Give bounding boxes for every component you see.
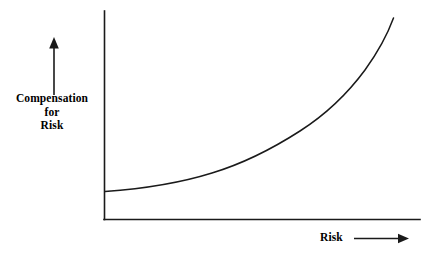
up-arrow-icon xyxy=(49,37,59,49)
y-axis-label-line-3: Risk xyxy=(0,119,104,133)
x-axis-label: Risk xyxy=(320,231,343,243)
y-axis-label-line-2: for xyxy=(0,106,104,120)
right-arrow-icon xyxy=(398,234,409,244)
y-axis-label-line-1: Compensation xyxy=(0,92,104,106)
risk-compensation-chart: Compensation for Risk Risk xyxy=(0,0,427,258)
y-axis-label: Compensation for Risk xyxy=(0,92,104,133)
compensation-risk-curve xyxy=(105,18,394,192)
